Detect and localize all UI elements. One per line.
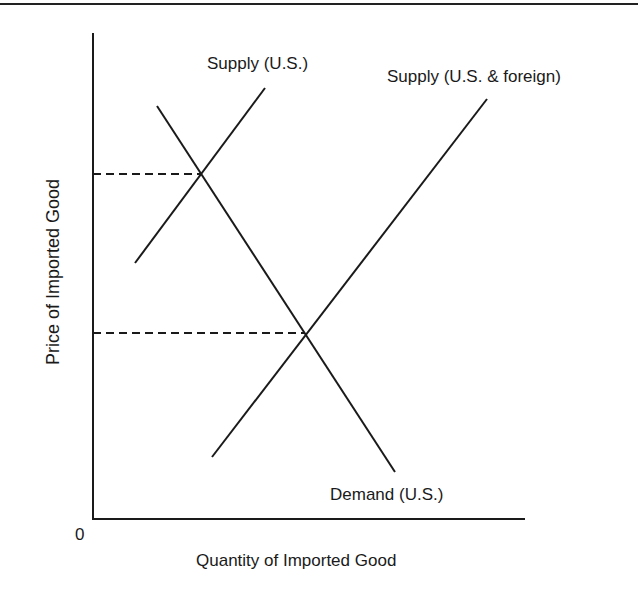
demand-us-curve	[157, 106, 395, 472]
chart-canvas	[0, 0, 638, 597]
supply-us-curve	[135, 88, 265, 263]
origin-label: 0	[75, 526, 84, 543]
y-axis-label: Price of Imported Good	[44, 167, 62, 377]
x-axis-label: Quantity of Imported Good	[196, 552, 396, 569]
demand-label: Demand (U.S.)	[330, 486, 443, 503]
supply-foreign-label: Supply (U.S. & foreign)	[387, 68, 561, 85]
supply-us-label: Supply (U.S.)	[207, 55, 308, 72]
